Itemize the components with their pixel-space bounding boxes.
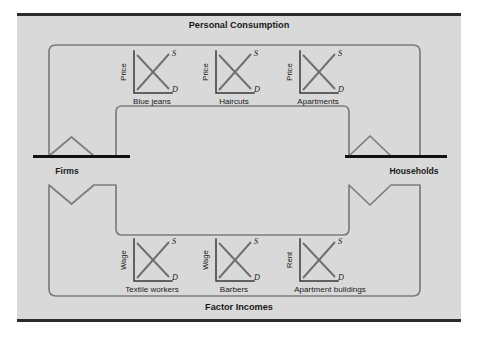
demand-tag-blue-jeans: D	[171, 85, 178, 94]
households-label: Households	[389, 166, 438, 176]
supply-tag-textile-workers: S	[172, 237, 176, 246]
market-label-textile-workers: Textile workers	[125, 285, 179, 294]
supply-tag-blue-jeans: S	[172, 49, 176, 58]
axis-label-apartment-buildings: Rent	[285, 251, 294, 268]
demand-tag-haircuts: D	[253, 85, 260, 94]
market-label-blue-jeans: Blue jeans	[133, 97, 171, 106]
market-label-barbers: Barbers	[220, 285, 248, 294]
firms-label: Firms	[55, 166, 79, 176]
market-label-haircuts: Haircuts	[219, 97, 249, 106]
market-label-apartment-buildings: Apartment buildings	[294, 285, 366, 294]
axis-label-barbers: Wage	[201, 250, 210, 270]
circular-flow-diagram: Personal Consumption Factor Incomes Firm…	[0, 0, 478, 341]
supply-tag-barbers: S	[254, 237, 258, 246]
bottom-band-title: Factor Incomes	[205, 302, 273, 312]
top-band-title: Personal Consumption	[189, 20, 290, 30]
demand-tag-apartment-buildings: D	[337, 273, 344, 282]
demand-tag-barbers: D	[253, 273, 260, 282]
axis-label-blue-jeans: Price	[119, 63, 128, 80]
axis-label-apartments: Price	[285, 63, 294, 80]
axis-label-textile-workers: Wage	[119, 250, 128, 270]
demand-tag-textile-workers: D	[171, 273, 178, 282]
supply-tag-apartment-buildings: S	[338, 237, 342, 246]
supply-tag-apartments: S	[338, 49, 342, 58]
axis-label-haircuts: Price	[201, 63, 210, 80]
supply-tag-haircuts: S	[254, 49, 258, 58]
demand-tag-apartments: D	[337, 85, 344, 94]
market-label-apartments: Apartments	[297, 97, 338, 106]
